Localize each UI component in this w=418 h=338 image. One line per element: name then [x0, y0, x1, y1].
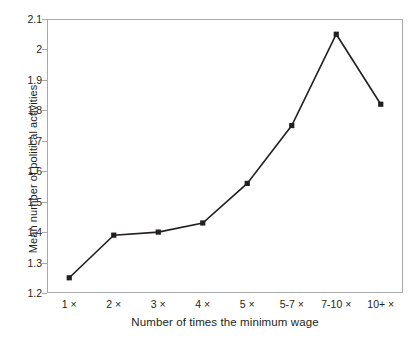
series-line [69, 34, 381, 278]
y-tick-label: 2.1 [16, 14, 42, 25]
x-tick-label: 5 × [240, 299, 255, 310]
y-tick-mark [42, 171, 47, 172]
y-tick-mark [42, 232, 47, 233]
data-point-marker [378, 102, 383, 107]
x-tick-label: 10+ × [367, 299, 394, 310]
y-tick-label: 1.3 [16, 258, 42, 269]
y-tick-mark [42, 110, 47, 111]
y-tick-mark [42, 293, 47, 294]
data-point-marker [245, 181, 250, 186]
y-tick-mark [42, 263, 47, 264]
y-tick-label: 2 [16, 44, 42, 55]
data-point-marker [67, 275, 72, 280]
series-markers [67, 32, 384, 281]
y-tick-mark [42, 19, 47, 20]
y-tick-label: 1.9 [16, 75, 42, 86]
y-tick-label: 1.4 [16, 227, 42, 238]
data-point-marker [156, 230, 161, 235]
y-tick-mark [42, 80, 47, 81]
x-tick-label: 5-7 × [280, 299, 304, 310]
data-point-marker [289, 123, 294, 128]
y-tick-label: 1.2 [16, 288, 42, 299]
x-tick-label: 3 × [151, 299, 166, 310]
y-tick-label: 1.5 [16, 197, 42, 208]
chart-figure: Mean number of political activities 1.21… [0, 0, 418, 338]
y-tick-label: 1.8 [16, 105, 42, 116]
y-tick-mark [42, 141, 47, 142]
y-axis-tick-labels: 1.21.31.41.51.61.71.81.922.1 [8, 0, 42, 338]
x-tick-label: 7-10 × [321, 299, 351, 310]
x-tick-label: 1 × [62, 299, 77, 310]
y-tick-mark [42, 49, 47, 50]
data-point-marker [111, 233, 116, 238]
x-tick-label: 4 × [195, 299, 210, 310]
y-tick-label: 1.6 [16, 166, 42, 177]
x-tick-label: 2 × [106, 299, 121, 310]
x-axis-title: Number of times the minimum wage [47, 316, 403, 328]
y-tick-label: 1.7 [16, 136, 42, 147]
data-point-marker [334, 32, 339, 37]
y-tick-mark [42, 202, 47, 203]
data-point-marker [200, 220, 205, 225]
plot-series-svg [47, 19, 403, 293]
